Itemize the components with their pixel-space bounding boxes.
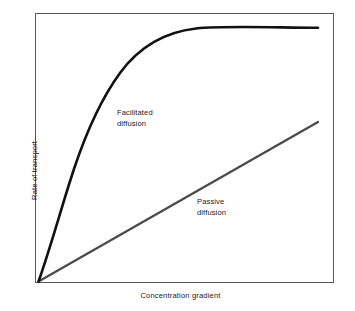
y-axis-title: Rate of transport	[30, 141, 39, 200]
plot-area-frame	[35, 13, 334, 283]
passive-diffusion-label: Passive diffusion	[197, 197, 226, 218]
chart-figure: Facilitated diffusion Passive diffusion …	[0, 0, 355, 311]
facilitated-diffusion-label: Facilitated diffusion	[117, 108, 153, 129]
x-axis-title: Concentration gradient	[3, 291, 355, 300]
